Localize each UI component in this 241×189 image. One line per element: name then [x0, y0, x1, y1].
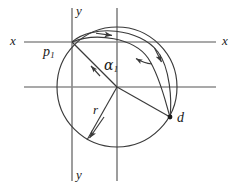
label-point-p1-sub: 1: [50, 50, 54, 60]
radius-arrow-outward: [90, 117, 105, 138]
label-y-bottom: y: [76, 168, 82, 181]
diagram-canvas: [0, 0, 241, 189]
radius-arrow-inward: [91, 66, 100, 76]
axis-lines: [24, 8, 216, 181]
label-angle-alpha1-base: α: [104, 57, 113, 73]
radius-lines: [72, 42, 170, 140]
arc-arrow-top: [96, 33, 112, 35]
label-point-p1: p1: [43, 45, 54, 59]
label-angle-alpha1-sub: 1: [114, 64, 118, 74]
label-y-top: y: [76, 4, 82, 17]
label-angle-alpha1: α1: [104, 58, 118, 73]
label-x-left: x: [10, 34, 16, 47]
trajectory-arcs: [72, 31, 171, 117]
label-point-p1-base: p: [43, 44, 50, 59]
label-point-d: d: [177, 111, 184, 125]
point-marker-d: [168, 115, 173, 120]
radius-line-r: [87, 87, 117, 140]
geometry-diagram-figure: x x y y p1 α1 r d: [0, 0, 241, 189]
label-radius-r: r: [93, 103, 98, 116]
label-x-right: x: [222, 34, 228, 47]
